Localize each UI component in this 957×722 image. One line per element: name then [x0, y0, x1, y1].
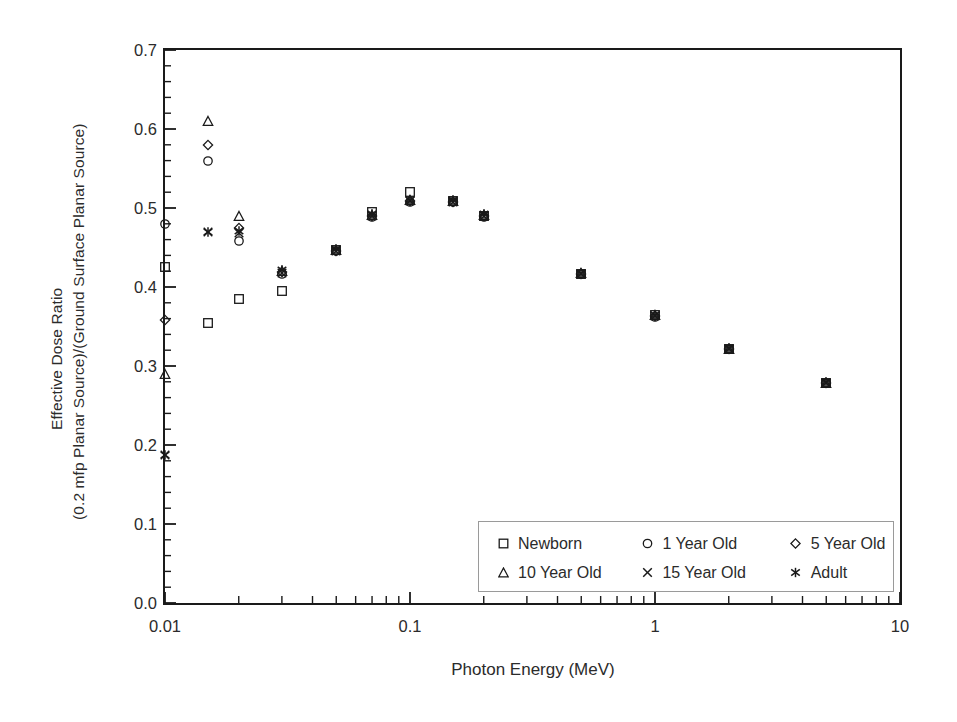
- y-axis-title-line-1: Effective Dose Ratio: [48, 288, 66, 430]
- legend-label: 5 Year Old: [811, 535, 886, 553]
- y-tick-label: 0.7: [111, 41, 157, 60]
- legend-item-adult: Adult: [786, 564, 893, 582]
- circle-marker-icon: [637, 537, 657, 551]
- chart-figure: Effective Dose Ratio (0.2 mfp Planar Sou…: [0, 0, 957, 722]
- y-tick-label: 0.5: [111, 199, 157, 218]
- y-axis-title-line-2: (0.2 mfp Planar Source)/(Ground Surface …: [70, 123, 88, 520]
- x-tick-label: 0.1: [399, 617, 422, 636]
- y-tick-label: 0.4: [111, 278, 157, 297]
- legend-label: Adult: [811, 564, 847, 582]
- diamond-marker-icon: [786, 537, 806, 551]
- legend-label: 1 Year Old: [662, 535, 737, 553]
- x-axis-title: Photon Energy (MeV): [163, 660, 903, 680]
- legend-item-newborn: Newborn: [493, 535, 637, 553]
- y-tick-label: 0.2: [111, 436, 157, 455]
- legend-row-2: 10 Year Old 15 Year Old Adult: [493, 558, 893, 587]
- x-tick-label: 0.01: [149, 617, 181, 636]
- triangle-marker-icon: [493, 566, 513, 580]
- chart-legend: Newborn 1 Year Old 5 Year Old 10 Year Ol…: [478, 521, 894, 592]
- legend-label: Newborn: [518, 535, 582, 553]
- square-marker-icon: [493, 537, 513, 551]
- y-tick-label: 0.1: [111, 515, 157, 534]
- cross-marker-icon: [637, 566, 657, 580]
- legend-item-10-year-old: 10 Year Old: [493, 564, 637, 582]
- y-axis-title: Effective Dose Ratio (0.2 mfp Planar Sou…: [0, 0, 110, 722]
- x-tick-label: 10: [891, 617, 909, 636]
- asterisk-marker-icon: [786, 566, 806, 580]
- y-tick-label: 0.6: [111, 120, 157, 139]
- y-tick-label: 0.3: [111, 357, 157, 376]
- legend-label: 10 Year Old: [518, 564, 602, 582]
- legend-row-1: Newborn 1 Year Old 5 Year Old: [493, 529, 893, 558]
- legend-label: 15 Year Old: [662, 564, 746, 582]
- legend-item-5-year-old: 5 Year Old: [786, 535, 893, 553]
- y-axis-tick-labels: 0.00.10.20.30.40.50.60.7: [105, 0, 157, 722]
- x-tick-label: 1: [650, 617, 659, 636]
- legend-item-15-year-old: 15 Year Old: [637, 564, 785, 582]
- legend-item-1-year-old: 1 Year Old: [637, 535, 785, 553]
- y-tick-label: 0.0: [111, 594, 157, 613]
